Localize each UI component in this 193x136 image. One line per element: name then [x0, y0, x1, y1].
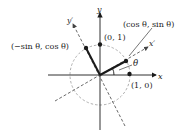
point-cos-sin — [124, 59, 128, 63]
point-1-0 — [127, 72, 131, 76]
theta-arc — [113, 69, 115, 76]
label-point-0-1: (0, 1) — [104, 33, 126, 42]
label-point-neg-sin-cos: (−sin θ, cos θ) — [11, 42, 69, 51]
point-neg-sin-cos — [84, 46, 88, 50]
rotation-diagram: x y x′ y′ θ (1, 0) (0, 1) (cos θ, sin θ)… — [0, 0, 193, 136]
label-point-1-0: (1, 0) — [131, 81, 153, 90]
theta-leader — [119, 65, 132, 70]
x-prime-label: x′ — [149, 39, 155, 48]
theta-label: θ — [133, 58, 138, 68]
y-axis-label: y — [96, 5, 102, 14]
vector-cos-sin — [100, 61, 126, 75]
vector-neg-sin-cos — [86, 48, 100, 75]
label-point-cos-sin: (cos θ, sin θ) — [123, 20, 174, 29]
y-prime-label: y′ — [66, 16, 73, 25]
point-0-1 — [98, 42, 102, 46]
x-axis-label: x — [158, 72, 163, 81]
